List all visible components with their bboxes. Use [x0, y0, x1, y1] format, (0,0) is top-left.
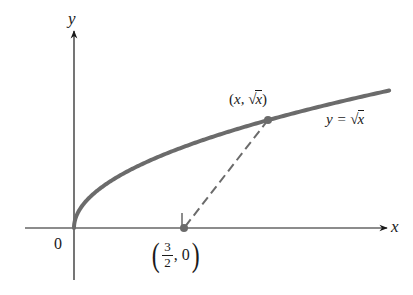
- equation-lhs: y =: [326, 111, 347, 127]
- y-axis-label: y: [68, 10, 76, 27]
- equation-sqrt: √x: [350, 112, 364, 127]
- curve-point-label: (x, √x): [229, 92, 267, 107]
- big-paren-close: ): [192, 238, 200, 272]
- radicand: x: [255, 90, 262, 107]
- fraction: 3 2: [162, 240, 173, 270]
- equation-label: y = √x: [326, 112, 364, 127]
- distance-segment: [184, 120, 268, 228]
- x-axis-label: x: [391, 218, 399, 235]
- curve-point: [264, 116, 272, 124]
- point-rest: , 0: [174, 247, 190, 263]
- sqrt-expression: √x: [248, 92, 262, 107]
- axis-point-label: ( 3 2 , 0 ): [150, 238, 201, 272]
- axis-point: [180, 224, 188, 232]
- equation-radicand: x: [358, 110, 365, 127]
- origin-label: 0: [54, 236, 62, 252]
- fraction-denominator: 2: [164, 256, 171, 270]
- point-x: x,: [234, 91, 244, 107]
- big-paren-open: (: [152, 238, 160, 272]
- paren-close: ): [262, 91, 267, 107]
- fraction-numerator: 3: [162, 240, 173, 255]
